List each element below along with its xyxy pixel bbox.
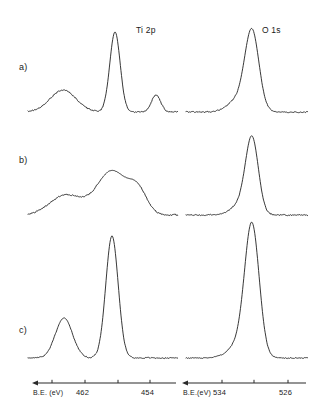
spectra-plot-area [0,0,320,418]
ti-2p-tick-462: 462 [76,388,89,397]
spectrum-trace [186,222,308,358]
panel-label-b: b) [19,155,27,165]
spectrum-trace [186,28,308,112]
panel-label-c: c) [19,325,27,335]
xps-figure: a) b) c) Ti 2p O 1s B.E. (eV) B.E.(eV) 4… [0,0,320,418]
panel-b-traces [28,136,308,216]
ti-2p-label: Ti 2p [136,25,156,35]
panel-a-traces [28,28,308,112]
spectrum-trace [186,136,308,216]
ti-2p-axis-caption: B.E. (eV) [33,389,63,396]
ti-2p-axis [32,380,176,386]
axis-arrow-icon [32,380,38,385]
axis-arrow-icon [182,380,188,385]
o-1s-axis [182,380,306,386]
panel-c-traces [28,222,308,358]
spectrum-trace [28,170,178,215]
ti-2p-tick-454: 454 [141,388,154,397]
spectrum-trace [28,236,178,359]
o-1s-axis-caption: B.E.(eV) [183,389,211,396]
spectrum-trace [28,32,178,112]
o-1s-tick-534: 534 [213,388,226,397]
o-1s-tick-526: 526 [279,388,292,397]
axes-group [32,380,306,386]
panel-label-a: a) [19,62,27,72]
spectra-traces [28,28,308,358]
o-1s-label: O 1s [262,25,281,35]
